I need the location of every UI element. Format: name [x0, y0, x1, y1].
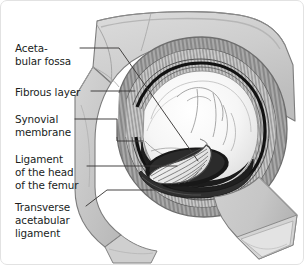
label-transverse-acetabular-ligament: Transverse acetabular ligament [15, 201, 70, 241]
label-ligament-of-head-of-femur: Ligament of the head of the femur [15, 153, 79, 193]
anatomy-figure: Aceta- bular fossa Fibrous layer Synovia… [0, 0, 304, 265]
label-fibrous-layer: Fibrous layer [15, 86, 80, 99]
label-acetabular-fossa: Aceta- bular fossa [15, 42, 71, 68]
label-synovial-membrane: Synovial membrane [15, 113, 71, 139]
